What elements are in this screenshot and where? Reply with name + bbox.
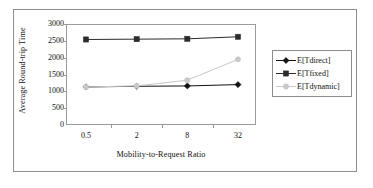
legend-item[interactable]: E[Tfixed] [275, 67, 349, 80]
x-axis-tick-label: 0.5 [71, 131, 101, 140]
series-plot [66, 24, 256, 125]
y-axis-tick-label: 2000 [34, 54, 64, 62]
y-axis-tick-label: 3000 [34, 20, 64, 28]
x-axis-tick-label: 8 [172, 131, 202, 140]
y-axis-tick-label: 0 [34, 121, 64, 129]
legend-marker-square-icon [275, 68, 297, 79]
y-axis-tick-label: 2500 [34, 37, 64, 45]
chart-figure: Average Round-trip Time 0500100015002000… [0, 0, 373, 188]
y-axis-tick-label: 1000 [34, 87, 64, 95]
x-axis-tick-mark [162, 125, 163, 128]
x-axis-tick-mark [111, 125, 112, 128]
legend-label: E[Tfixed] [297, 69, 329, 78]
legend-item[interactable]: E[Tdynamic] [275, 80, 349, 93]
y-axis-tick-labels: 050010001500200025003000 [30, 24, 64, 125]
y-axis-tick-label: 500 [34, 104, 64, 112]
y-axis-tick-label: 1500 [34, 71, 64, 79]
chart-legend: E[Tdirect]E[Tfixed]E[Tdynamic] [272, 50, 352, 97]
y-axis-title: Average Round-trip Time [18, 12, 27, 130]
legend-marker-diamond-icon [275, 55, 297, 66]
x-axis-tick-mark [213, 125, 214, 128]
legend-item[interactable]: E[Tdirect] [275, 54, 349, 67]
legend-label: E[Tdirect] [297, 56, 330, 65]
x-axis-tick-label: 32 [223, 131, 253, 140]
x-axis-tick-label: 2 [122, 131, 152, 140]
x-axis-tick-marks [66, 125, 256, 129]
legend-marker-circle-icon [275, 81, 297, 92]
series-etfixed [83, 34, 240, 42]
x-axis-title: Mobility-to-Request Ratio [66, 150, 256, 159]
legend-label: E[Tdynamic] [297, 82, 340, 91]
